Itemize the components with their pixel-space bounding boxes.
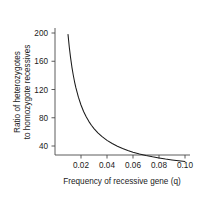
y-axis-ticks — [52, 33, 56, 146]
x-tick-label-010: 0.10 — [177, 161, 193, 170]
y-tick-label-40: 40 — [39, 142, 49, 151]
y-tick-label-200: 200 — [34, 29, 48, 38]
chart-figure: 200 160 120 80 40 0.02 0.04 0.06 0.08 0.… — [0, 0, 200, 202]
y-tick-label-80: 80 — [39, 114, 49, 123]
y-axis-title-line1: Ratio of heterozygotes — [13, 51, 22, 133]
y-axis-title: Ratio of heterozygotes to homozygote rec… — [13, 45, 32, 140]
y-tick-label-160: 160 — [34, 57, 48, 66]
y-tick-label-120: 120 — [34, 86, 48, 95]
y-axis-title-line2: to homozygote recessives — [23, 45, 32, 140]
x-axis-tick-labels: 0.02 0.04 0.06 0.08 0.10 — [73, 161, 193, 170]
x-tick-label-006: 0.06 — [125, 161, 141, 170]
chart-canvas: 200 160 120 80 40 0.02 0.04 0.06 0.08 0.… — [0, 0, 200, 202]
x-tick-label-008: 0.08 — [151, 161, 167, 170]
x-axis-title: Frequency of recessive gene (q) — [63, 177, 181, 186]
x-tick-label-004: 0.04 — [99, 161, 115, 170]
x-tick-label-002: 0.02 — [73, 161, 89, 170]
data-curve-hyperbola — [68, 34, 185, 161]
x-axis-ticks — [81, 155, 185, 159]
y-axis-tick-labels: 200 160 120 80 40 — [34, 29, 48, 151]
